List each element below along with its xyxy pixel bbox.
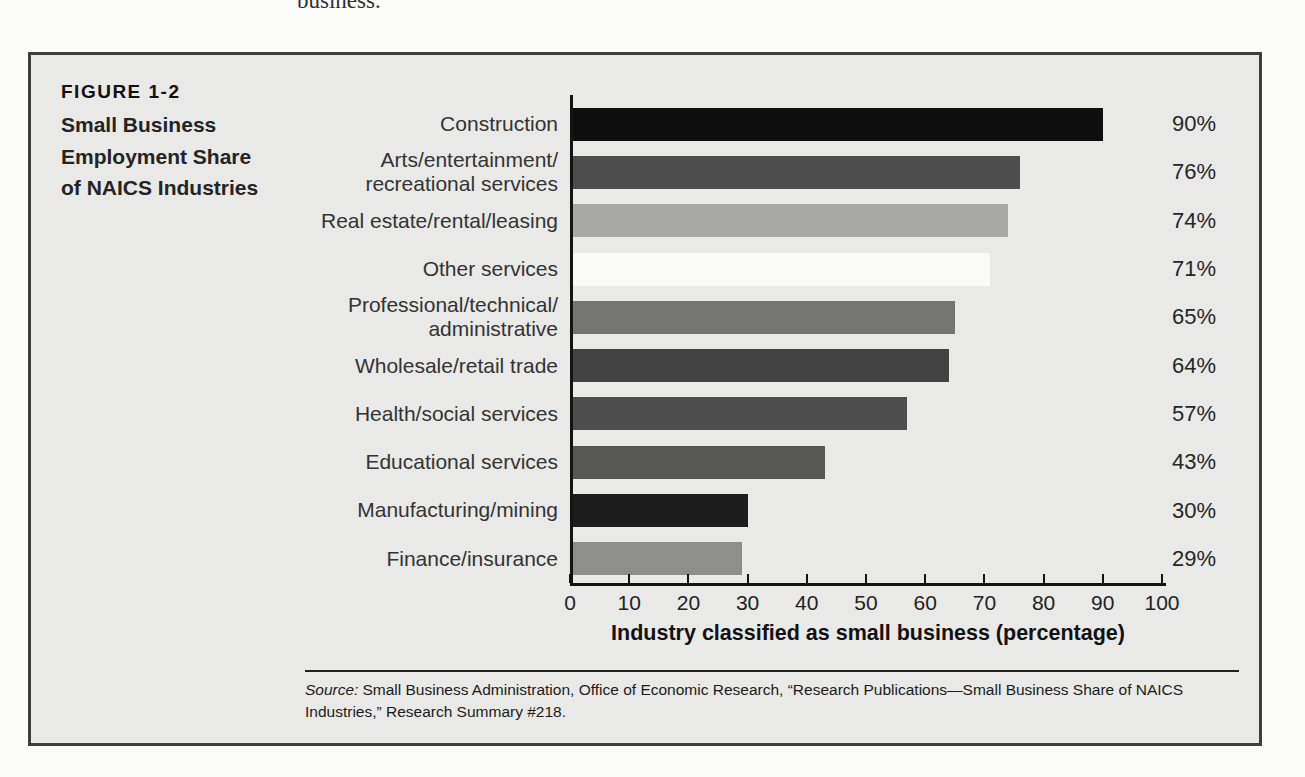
bar: [570, 301, 955, 334]
x-tick: [569, 574, 571, 583]
bar-track: [570, 156, 1162, 189]
value-label: 29%: [1172, 546, 1216, 572]
source-note: Source:Small Business Administration, Of…: [305, 670, 1239, 724]
x-axis-tick-labels: 0102030405060708090100: [570, 591, 1162, 615]
y-axis-line: [570, 95, 573, 586]
bar: [570, 253, 990, 286]
bar: [570, 204, 1008, 237]
bar: [570, 108, 1103, 141]
x-tick-label: 50: [854, 591, 877, 615]
chart-row: Wholesale/retail trade64%: [41, 341, 1253, 389]
x-tick-label: 40: [795, 591, 818, 615]
chart-row: Professional/technical/ administrative65…: [41, 293, 1253, 341]
x-tick: [628, 574, 630, 583]
bar-track: [570, 397, 1162, 430]
category-label: Construction: [41, 112, 570, 136]
x-tick: [865, 574, 867, 583]
chart-row: Arts/entertainment/ recreational service…: [41, 148, 1253, 196]
x-tick-label: 80: [1032, 591, 1055, 615]
category-label: Professional/technical/ administrative: [41, 293, 570, 341]
value-label: 65%: [1172, 304, 1216, 330]
x-tick-label: 70: [973, 591, 996, 615]
x-tick-label: 10: [618, 591, 641, 615]
x-tick: [687, 574, 689, 583]
bar: [570, 156, 1020, 189]
bar-track: [570, 542, 1162, 575]
x-tick-label: 20: [677, 591, 700, 615]
chart-row: Other services71%: [41, 245, 1253, 293]
bar: [570, 349, 949, 382]
x-tick-label: 100: [1144, 591, 1179, 615]
x-tick-label: 90: [1091, 591, 1114, 615]
x-tick: [1043, 574, 1045, 583]
bar: [570, 446, 825, 479]
chart-row: Real estate/rental/leasing74%: [41, 197, 1253, 245]
chart-row: Construction90%: [41, 100, 1253, 148]
source-text: Small Business Administration, Office of…: [305, 681, 1183, 720]
bar-track: [570, 494, 1162, 527]
value-label: 90%: [1172, 111, 1216, 137]
page: { "page": { "cropped_text_top": "busines…: [0, 0, 1305, 777]
category-label: Manufacturing/mining: [41, 498, 570, 522]
x-tick: [1102, 574, 1104, 583]
x-axis-ticks: [570, 574, 1162, 583]
x-tick: [983, 574, 985, 583]
category-label: Arts/entertainment/ recreational service…: [41, 148, 570, 196]
value-label: 57%: [1172, 401, 1216, 427]
value-label: 71%: [1172, 256, 1216, 282]
source-label: Source:: [305, 681, 362, 698]
bar: [570, 542, 742, 575]
value-label: 64%: [1172, 353, 1216, 379]
x-axis-caption: Industry classified as small business (p…: [570, 621, 1166, 646]
value-label: 76%: [1172, 159, 1216, 185]
category-label: Health/social services: [41, 402, 570, 426]
bar-track: [570, 204, 1162, 237]
bar-track: [570, 108, 1162, 141]
x-tick-label: 30: [736, 591, 759, 615]
category-label: Other services: [41, 257, 570, 281]
x-axis-line: [570, 583, 1166, 586]
page-body-text-cropped: business.: [297, 0, 381, 14]
figure-box: FIGURE 1-2 Small Business Employment Sha…: [28, 52, 1262, 746]
value-label: 43%: [1172, 449, 1216, 475]
x-tick: [1161, 574, 1163, 583]
x-tick-label: 0: [564, 591, 576, 615]
x-tick-label: 60: [914, 591, 937, 615]
bar: [570, 494, 748, 527]
category-label: Wholesale/retail trade: [41, 354, 570, 378]
x-tick: [924, 574, 926, 583]
bar: [570, 397, 907, 430]
value-label: 74%: [1172, 208, 1216, 234]
value-label: 30%: [1172, 498, 1216, 524]
chart-row: Health/social services57%: [41, 390, 1253, 438]
category-label: Finance/insurance: [41, 547, 570, 571]
chart-row: Educational services43%: [41, 438, 1253, 486]
bar-track: [570, 446, 1162, 479]
category-label: Real estate/rental/leasing: [41, 209, 570, 233]
x-tick: [747, 574, 749, 583]
bar-track: [570, 349, 1162, 382]
bar-track: [570, 301, 1162, 334]
bar-chart: Construction90%Arts/entertainment/ recre…: [41, 100, 1253, 583]
category-label: Educational services: [41, 450, 570, 474]
chart-row: Manufacturing/mining30%: [41, 486, 1253, 534]
bar-track: [570, 253, 1162, 286]
x-tick: [806, 574, 808, 583]
